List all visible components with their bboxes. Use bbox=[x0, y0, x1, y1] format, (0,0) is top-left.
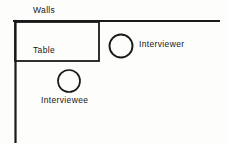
interviewee-label: Interviewee bbox=[41, 96, 88, 105]
interview-room-diagram: Walls Table Interviewer Interviewee bbox=[0, 0, 228, 143]
table-label: Table bbox=[33, 46, 55, 55]
interviewee-circle bbox=[58, 70, 80, 92]
diagram-canvas bbox=[0, 0, 228, 143]
table-rectangle bbox=[15, 22, 99, 61]
interviewer-label: Interviewer bbox=[139, 40, 184, 49]
walls-label: Walls bbox=[33, 6, 55, 15]
interviewer-circle bbox=[110, 35, 133, 58]
